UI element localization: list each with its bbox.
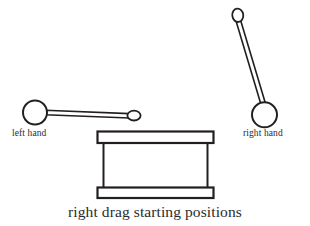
left-hand-label: left hand [12, 128, 46, 138]
drum-top-rim [98, 132, 214, 144]
right-hand-drumstick [232, 8, 277, 127]
left-hand-circle [23, 101, 47, 125]
right-stick-shaft-shape [236, 18, 266, 104]
left-hand-drumstick [23, 101, 141, 125]
drum-bottom-rim [98, 188, 214, 199]
left-stick-shaft-shape [45, 110, 130, 118]
drum [98, 132, 214, 199]
figure-caption: right drag starting positions [0, 203, 310, 221]
left-stick-tip-ellipse [127, 111, 140, 121]
diagram-canvas [0, 0, 310, 226]
drum-diagram: left hand right hand right drag starting… [0, 0, 310, 226]
right-hand-label: right hand [243, 128, 283, 138]
right-hand-circle [252, 102, 277, 127]
right-stick-tip-ellipse [232, 8, 245, 23]
